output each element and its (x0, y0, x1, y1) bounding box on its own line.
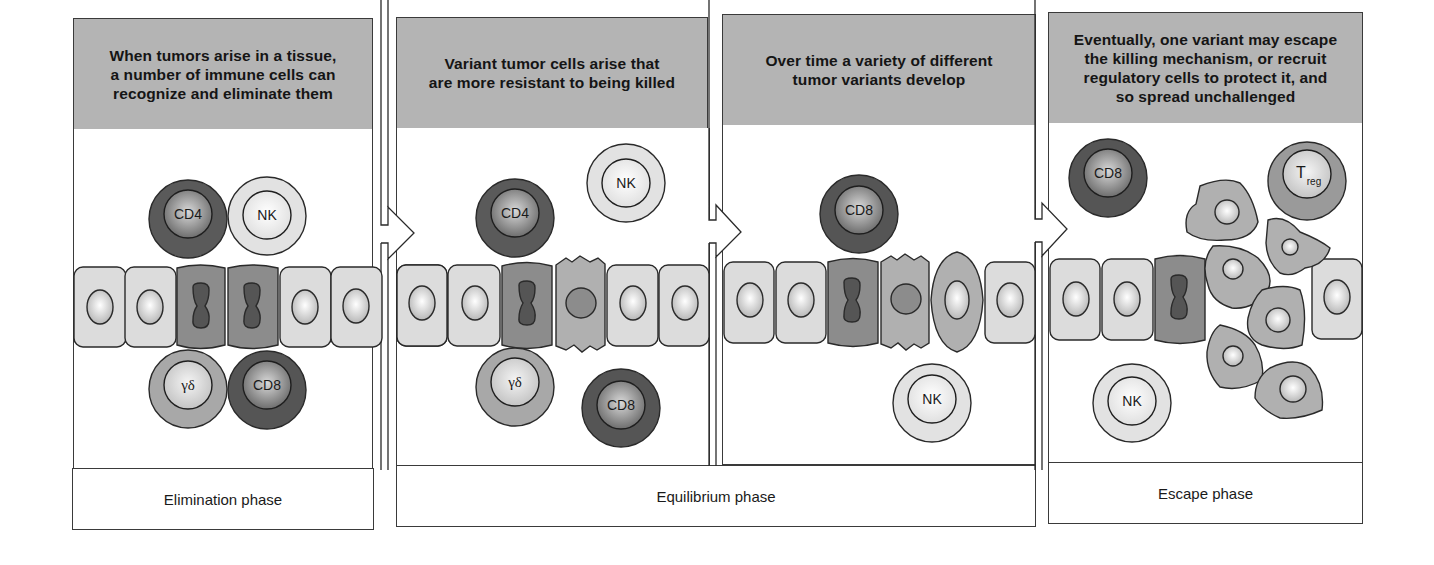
gamma-delta-t-cell: γδ (149, 350, 227, 428)
nk-cell: NK (1093, 364, 1171, 442)
svg-text:CD8: CD8 (1094, 165, 1122, 181)
svg-text:T: T (1296, 164, 1306, 181)
svg-text:CD8: CD8 (607, 397, 635, 413)
svg-text:CD4: CD4 (174, 206, 202, 222)
nk-cell: NK (893, 364, 971, 442)
diagram-artwork: CD4 NK γδ CD8 CD4 NK (0, 0, 1434, 565)
svg-text:NK: NK (616, 175, 636, 191)
nk-cell: NK (228, 177, 306, 255)
cd8-t-cell: CD8 (820, 175, 898, 253)
arrow-icon (709, 0, 741, 466)
svg-text:γδ: γδ (180, 377, 195, 393)
svg-text:γδ: γδ (507, 374, 522, 390)
svg-text:CD4: CD4 (501, 205, 529, 221)
svg-text:NK: NK (1122, 393, 1142, 409)
arrow-icon (381, 0, 414, 470)
cd8-t-cell: CD8 (582, 369, 660, 447)
arrow-icon (1035, 0, 1067, 470)
svg-text:CD8: CD8 (253, 377, 281, 393)
cd4-t-cell: CD4 (476, 179, 554, 257)
svg-text:CD8: CD8 (845, 202, 873, 218)
panel-2-tissue (397, 256, 709, 352)
cd8-t-cell: CD8 (228, 351, 306, 429)
svg-text:NK: NK (922, 391, 942, 407)
panel-3-tissue (724, 252, 1035, 352)
nk-cell: NK (587, 144, 665, 222)
treg-cell: T reg (1268, 142, 1346, 220)
gamma-delta-t-cell: γδ (476, 348, 554, 426)
svg-text:NK: NK (257, 207, 277, 223)
cd4-t-cell: CD4 (149, 180, 227, 258)
panel-1-tissue (74, 265, 382, 349)
cd8-t-cell: CD8 (1069, 139, 1147, 217)
svg-text:reg: reg (1307, 176, 1321, 187)
